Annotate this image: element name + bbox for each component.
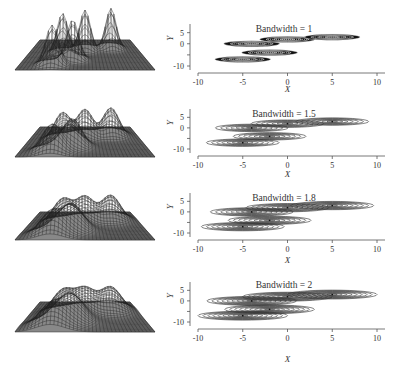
svg-text:-10: -10 <box>173 145 184 154</box>
svg-text:-10: -10 <box>193 334 204 343</box>
contour-lines <box>201 201 373 230</box>
svg-text:5: 5 <box>330 334 334 343</box>
svg-text:Y: Y <box>165 35 175 41</box>
plot-title: Bandwidth = 1.8 <box>252 193 316 203</box>
svg-text:5: 5 <box>330 78 334 87</box>
svg-text:0: 0 <box>180 124 184 133</box>
svg-text:Y: Y <box>165 119 175 125</box>
svg-text:-10: -10 <box>193 78 204 87</box>
plot-title: Bandwidth = 2 <box>256 280 313 290</box>
surface-plot-2 <box>0 95 170 190</box>
surface-plot-3 <box>0 190 170 285</box>
svg-text:-10: -10 <box>193 245 204 254</box>
svg-text:-5: -5 <box>239 245 246 254</box>
plot-title: Bandwidth = 1 <box>256 24 313 34</box>
svg-text:0: 0 <box>286 334 290 343</box>
svg-text:-5: -5 <box>239 78 246 87</box>
svg-text:5: 5 <box>180 286 184 295</box>
svg-text:5: 5 <box>180 197 184 206</box>
svg-text:-10: -10 <box>173 318 184 327</box>
contour-plot-3: Bandwidth = 1.8 -10-5051050-10XY <box>160 185 405 275</box>
svg-text:5: 5 <box>330 245 334 254</box>
svg-text:10: 10 <box>373 245 381 254</box>
svg-text:10: 10 <box>373 161 381 170</box>
svg-text:Y: Y <box>165 292 175 298</box>
svg-text:-5: -5 <box>239 334 246 343</box>
svg-text:5: 5 <box>180 113 184 122</box>
svg-text:X: X <box>284 169 291 179</box>
svg-text:-10: -10 <box>173 229 184 238</box>
svg-text:X: X <box>284 354 291 364</box>
svg-text:5: 5 <box>180 29 184 38</box>
contour-plot-1: Bandwidth = 1 -10-5051050-10XY <box>160 0 405 95</box>
svg-text:0: 0 <box>180 208 184 217</box>
plot-title: Bandwidth = 1.5 <box>252 109 316 119</box>
contour-plot-2: Bandwidth = 1.5 -10-5051050-10XY <box>160 95 405 185</box>
svg-text:X: X <box>284 255 291 265</box>
svg-text:-5: -5 <box>239 161 246 170</box>
surface-plot-1 <box>0 0 170 95</box>
contour-lines <box>198 290 377 320</box>
svg-text:10: 10 <box>373 334 381 343</box>
svg-text:0: 0 <box>286 245 290 254</box>
svg-text:-10: -10 <box>173 62 184 71</box>
svg-text:-10: -10 <box>193 161 204 170</box>
svg-text:0: 0 <box>180 297 184 306</box>
contour-lines <box>215 34 360 62</box>
svg-text:5: 5 <box>330 161 334 170</box>
svg-text:10: 10 <box>373 78 381 87</box>
svg-text:X: X <box>284 84 291 94</box>
contour-plot-4: Bandwidth = 2 -10-5051050-10XY <box>160 270 405 377</box>
svg-text:Y: Y <box>165 203 175 209</box>
surface-plot-4 <box>0 280 170 377</box>
contour-lines <box>206 118 368 147</box>
svg-text:0: 0 <box>180 40 184 49</box>
